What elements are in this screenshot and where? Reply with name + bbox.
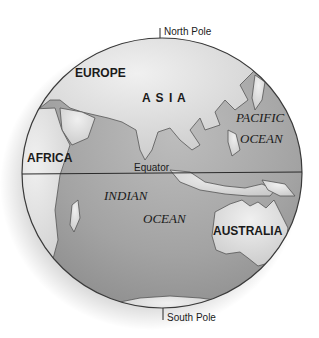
pacific-ocean-label-line1: PACIFIC [236, 111, 284, 124]
africa-label: AFRICA [27, 152, 72, 164]
australia-label: AUSTRALIA [213, 225, 282, 237]
south-pole-label: South Pole [167, 313, 216, 323]
north-pole-label: North Pole [164, 27, 211, 37]
europe-label: EUROPE [75, 67, 126, 79]
indian-ocean-label-line1: INDIAN [104, 189, 147, 202]
equator-label: Equator [134, 163, 169, 173]
indian-ocean-label-line2: OCEAN [143, 212, 186, 225]
asia-label: A S I A [142, 92, 187, 104]
globe-map: North Pole South Pole EUROPE A S I A AFR… [0, 0, 319, 338]
pacific-ocean-label-line2: OCEAN [240, 132, 283, 145]
